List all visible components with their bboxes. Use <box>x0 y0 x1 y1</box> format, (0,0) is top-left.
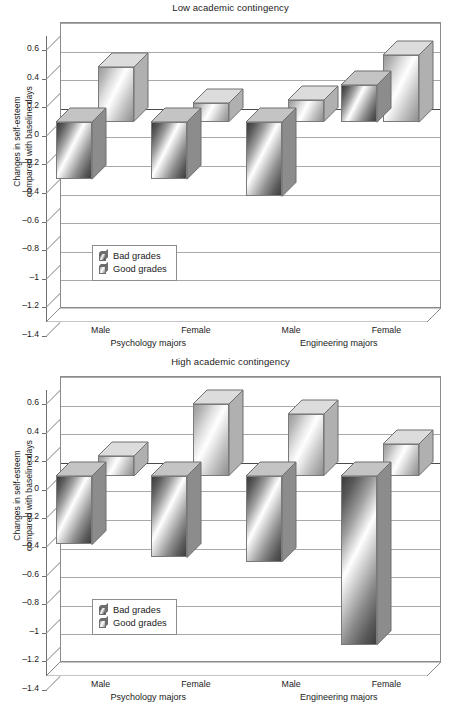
y-axis-depth-connector <box>46 236 61 251</box>
bar-bad-grades-male-0 <box>56 476 92 545</box>
legend-label: Bad grades <box>113 251 161 261</box>
bar-front-face <box>341 85 377 122</box>
legend-entry: Good grades <box>99 617 167 630</box>
y-axis-tick-label: –1.2 <box>22 300 39 310</box>
y-axis-depth-connector <box>46 419 61 434</box>
y-axis-tick-label: –0.2 <box>22 157 39 167</box>
y-axis-depth-connector <box>46 447 61 462</box>
bar-front-face <box>151 122 187 179</box>
gridline <box>61 23 440 24</box>
y-axis-tick-label: –0.8 <box>22 243 39 253</box>
bar-front-face <box>56 122 92 179</box>
x-axis-tick-label: Female <box>156 679 236 689</box>
bar-bad-grades-female-1 <box>151 476 187 558</box>
y-axis-depth-connector <box>46 36 61 51</box>
y-axis-tick-label: –0.2 <box>22 511 39 521</box>
bar-bad-grades-female-3 <box>341 476 377 645</box>
chart-panel-low: Low academic contingency Changes in self… <box>0 0 461 353</box>
bar-swatch-dark-icon <box>99 251 108 261</box>
x-axis-tick-label: Female <box>156 325 236 335</box>
gridline <box>61 223 440 224</box>
y-axis-line: 0.60.40.20–0.2–0.4–0.6–0.8–1–1.2–1.4 <box>46 390 47 676</box>
y-axis-tick-label: 0 <box>34 129 39 139</box>
y-axis-tick-label: –1.4 <box>22 683 39 693</box>
x-axis-tick-label: Male <box>251 679 331 689</box>
y-axis-tick-label: 0.6 <box>27 397 39 407</box>
y-axis-tick-label: –0.6 <box>22 569 39 579</box>
legend-label: Bad grades <box>113 605 161 615</box>
bar-bad-grades-male-2 <box>246 122 282 196</box>
gridline <box>61 406 440 407</box>
y-axis-tick-label: –1.4 <box>22 329 39 339</box>
y-axis-tick-label: –1 <box>29 272 39 282</box>
bar-swatch-light-icon <box>99 264 108 274</box>
bar-bad-grades-male-2 <box>246 476 282 562</box>
x-axis-tick-label: Female <box>346 325 426 335</box>
y-axis-depth-connector <box>46 647 61 662</box>
x-axis-group-label: Psychology majors <box>73 692 223 702</box>
y-axis-tick-label: –1.2 <box>22 654 39 664</box>
x-axis-tick-label: Male <box>61 325 141 335</box>
bar-swatch-dark-icon <box>99 605 108 615</box>
y-axis-tick-label: 0.6 <box>27 43 39 53</box>
y-axis-depth-connector <box>46 179 61 194</box>
y-axis-tick-label: –0.4 <box>22 186 39 196</box>
y-axis-tick-label: 0.2 <box>27 454 39 464</box>
bar-front-face <box>56 476 92 545</box>
legend-entry: Good grades <box>99 263 167 276</box>
chart-panel-high: High academic contingency Changes in sel… <box>0 354 461 707</box>
y-axis-depth-connector <box>46 619 61 634</box>
bar-front-face <box>151 476 187 558</box>
y-axis-depth-connector <box>46 562 61 577</box>
x-axis-tick-label: Female <box>346 679 426 689</box>
y-axis-depth-connector <box>46 265 61 280</box>
bar-bad-grades-male-0 <box>56 122 92 179</box>
legend-entry: Bad grades <box>99 604 167 617</box>
gridline <box>61 377 440 378</box>
y-axis-tick-label: 0 <box>34 483 39 493</box>
y-axis-depth-connector <box>46 293 61 308</box>
y-axis-depth-connector <box>46 322 61 337</box>
chart-title: High academic contingency <box>0 356 461 367</box>
x-axis-tick-label: Male <box>251 325 331 335</box>
bar-front-face <box>246 476 282 562</box>
y-axis-line: 0.60.40.20–0.2–0.4–0.6–0.8–1–1.2–1.4 <box>46 36 47 322</box>
y-axis-depth-connector <box>46 93 61 108</box>
bar-bad-grades-female-3 <box>341 85 377 122</box>
x-axis-group-label: Engineering majors <box>264 692 414 702</box>
x-axis-tick-label: Male <box>61 679 141 689</box>
gridline <box>61 663 440 664</box>
y-axis-tick-label: –0.4 <box>22 540 39 550</box>
y-axis-tick-label: –0.6 <box>22 215 39 225</box>
y-axis-depth-connector <box>46 390 61 405</box>
y-axis-tick-label: –0.8 <box>22 597 39 607</box>
bar-swatch-light-icon <box>99 618 108 628</box>
bar-bad-grades-female-1 <box>151 122 187 179</box>
legend-label: Good grades <box>113 264 167 274</box>
y-axis-depth-connector <box>46 65 61 80</box>
legend-label: Good grades <box>113 618 167 628</box>
chart-title: Low academic contingency <box>0 2 461 13</box>
y-axis-tick-label: 0.4 <box>27 426 39 436</box>
y-axis-depth-connector <box>46 590 61 605</box>
y-axis-depth-connector <box>46 676 61 691</box>
bar-front-face <box>246 122 282 196</box>
bar-front-face <box>341 476 377 645</box>
gridline <box>61 309 440 310</box>
y-axis-title-line1: Changes in self-esteem <box>12 27 24 257</box>
legend-entry: Bad grades <box>99 250 167 263</box>
x-axis-group-label: Psychology majors <box>73 338 223 348</box>
x-axis-group-label: Engineering majors <box>264 338 414 348</box>
y-axis-title-line1: Changes in self-esteem <box>12 381 24 611</box>
y-axis-depth-connector <box>46 208 61 223</box>
y-axis-tick-label: 0.4 <box>27 72 39 82</box>
y-axis-tick-label: 0.2 <box>27 100 39 110</box>
legend: Bad grades Good grades <box>92 245 177 281</box>
y-axis-tick-label: –1 <box>29 626 39 636</box>
legend: Bad grades Good grades <box>92 599 177 635</box>
